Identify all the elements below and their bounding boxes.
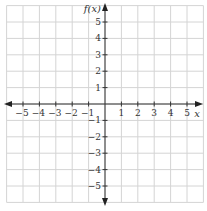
y-tick-label: −1 — [88, 115, 101, 125]
y-axis-up-arrow-icon — [102, 3, 108, 11]
y-tick-label: −2 — [88, 132, 101, 142]
x-tick-label: 5 — [184, 108, 190, 118]
y-tick-label: −3 — [88, 148, 102, 158]
y-axis-title: f(x) — [83, 3, 101, 14]
x-axis-left-arrow-icon — [4, 101, 12, 107]
coordinate-plane: −5−4−3−2−11234554321−1−2−3−4−5 f(x) x — [0, 0, 207, 211]
y-tick-label: −5 — [88, 181, 102, 191]
y-tick-label: 1 — [95, 83, 101, 93]
x-tick-label: −2 — [65, 108, 78, 118]
y-tick-label: 4 — [95, 33, 101, 43]
y-tick-label: 5 — [95, 17, 101, 27]
x-tick-label: −4 — [32, 108, 46, 118]
x-axis-title: x — [194, 108, 200, 119]
x-tick-label: 4 — [168, 108, 174, 118]
x-tick-label: 3 — [151, 108, 157, 118]
y-tick-label: 3 — [95, 50, 101, 60]
y-tick-label: −4 — [88, 165, 102, 175]
x-tick-label: −5 — [15, 108, 29, 118]
x-tick-label: 2 — [135, 108, 141, 118]
x-axis-right-arrow-icon — [195, 101, 203, 107]
axes — [4, 3, 203, 206]
x-tick-label: 1 — [119, 108, 125, 118]
y-tick-label: 2 — [95, 66, 101, 76]
x-tick-label: −3 — [48, 108, 62, 118]
